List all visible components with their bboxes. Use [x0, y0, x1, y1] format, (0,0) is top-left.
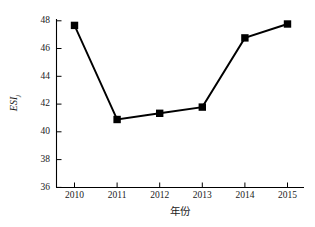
x-tick-label-2011: 2011 [100, 191, 134, 201]
data-point-2012 [156, 110, 163, 117]
x-axis-label: 年份 [56, 203, 304, 218]
y-tick-label-42: 42 [28, 99, 50, 109]
data-point-2010 [71, 22, 78, 29]
x-tick-label-2012: 2012 [143, 191, 177, 201]
chart-figure: 48 46 44 42 40 38 36 2010 2011 2012 2013… [0, 0, 315, 227]
x-tick-marks [75, 183, 288, 188]
data-line-series-esi [75, 24, 288, 120]
data-point-2015 [284, 20, 291, 27]
y-tick-label-40: 40 [28, 127, 50, 137]
data-point-2011 [113, 116, 120, 123]
y-tick-label-44: 44 [28, 72, 50, 82]
data-markers [71, 20, 291, 123]
axis-lines [56, 19, 304, 188]
y-axis-label-text: ESI [8, 97, 19, 111]
y-tick-marks [57, 21, 62, 188]
data-point-2013 [199, 103, 206, 110]
y-axis-label-subscript: j [14, 95, 22, 97]
x-tick-label-2010: 2010 [58, 191, 92, 201]
data-point-2014 [241, 34, 248, 41]
y-tick-label-48: 48 [28, 16, 50, 26]
x-tick-label-2014: 2014 [228, 191, 262, 201]
x-tick-label-2015: 2015 [271, 191, 305, 201]
y-tick-label-38: 38 [28, 155, 50, 165]
y-axis-label: ESIj [8, 79, 22, 127]
y-tick-label-46: 46 [28, 44, 50, 54]
y-tick-label-36: 36 [28, 183, 50, 193]
x-tick-label-2013: 2013 [185, 191, 219, 201]
